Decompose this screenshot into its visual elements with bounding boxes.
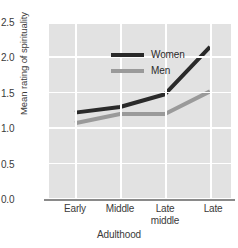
y-tick-label: 2.0 xyxy=(0,52,47,63)
legend-swatch-women xyxy=(111,53,144,57)
x-tick-label-early: Early xyxy=(64,203,86,215)
legend-item-men: Men xyxy=(111,64,185,77)
x-tick-label-middle: Middle xyxy=(106,203,134,215)
y-tick-label: 2.5 xyxy=(0,17,47,28)
y-axis-tick-labels: 0.0 0.5 1.0 1.5 2.0 2.5 xyxy=(0,0,47,248)
chart-legend: Women Men xyxy=(111,48,185,80)
x-axis-line xyxy=(44,199,235,201)
y-tick-label: 1.0 xyxy=(0,123,47,134)
gridline-vertical xyxy=(210,22,212,199)
y-tick-label: 0.0 xyxy=(0,194,47,205)
legend-swatch-men xyxy=(111,69,144,73)
legend-item-women: Women xyxy=(111,48,185,61)
y-tick-label: 0.5 xyxy=(0,158,47,169)
y-tick-label: 1.5 xyxy=(0,87,47,98)
legend-label-women: Women xyxy=(151,49,185,60)
x-axis-title: Adulthood xyxy=(0,229,238,240)
plot-area: Women Men xyxy=(49,22,231,199)
x-tick-line1: Middle xyxy=(106,203,134,214)
gridline-vertical xyxy=(75,22,77,199)
legend-label-men: Men xyxy=(151,65,170,76)
spirituality-line-chart: Mean rating of spirituality 0.0 0.5 1.0 … xyxy=(0,0,238,248)
x-tick-label-late: Late xyxy=(204,203,223,215)
x-tick-line1: Early xyxy=(64,203,86,214)
x-tick-line1: Late xyxy=(204,203,223,214)
x-tick-line2: middle xyxy=(151,215,179,227)
series-line-men xyxy=(75,91,210,123)
x-tick-line1: Late xyxy=(156,203,175,214)
x-tick-label-late-middle: Late middle xyxy=(151,203,179,226)
